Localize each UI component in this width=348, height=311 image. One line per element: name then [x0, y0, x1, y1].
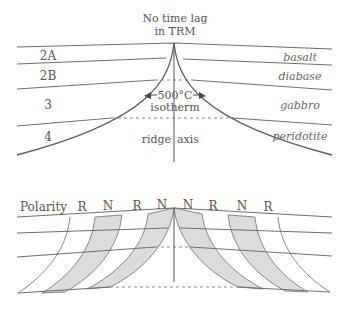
rock-label-gabbro: gabbro [280, 99, 320, 112]
layer-label-2b: 2B [40, 69, 57, 83]
layer-label-4: 4 [44, 130, 52, 144]
polarity-6: R [208, 199, 218, 213]
rock-label-peridotite: peridotite [273, 130, 328, 143]
polarity-8: R [263, 200, 273, 214]
layer-label-2a: 2A [40, 49, 57, 63]
diagram-canvas: No time lag in TRM 500°C isotherm ridge … [0, 0, 348, 311]
title-line2: in TRM [155, 25, 196, 38]
bottom-diagram: Polarity R N R N N R N R [17, 198, 332, 293]
title-line1: No time lag [142, 12, 207, 25]
top-diagram: No time lag in TRM 500°C isotherm ridge … [17, 12, 332, 162]
ridge-label: ridge [142, 133, 171, 146]
isotherm-label-2: isotherm [150, 101, 200, 114]
rock-label-diabase: diabase [279, 70, 322, 83]
axis-label: axis [177, 133, 199, 146]
polarity-4: N [157, 198, 168, 212]
polarity-7: N [237, 199, 248, 213]
polarity-2: N [103, 199, 114, 213]
polarity-1: R [77, 200, 87, 214]
rock-label-basalt: basalt [283, 51, 317, 64]
polarity-3: R [132, 199, 142, 213]
polarity-5: N [183, 198, 194, 212]
layer-label-3: 3 [44, 98, 52, 112]
arrow-right-icon [193, 92, 206, 99]
polarity-label: Polarity [20, 200, 67, 214]
